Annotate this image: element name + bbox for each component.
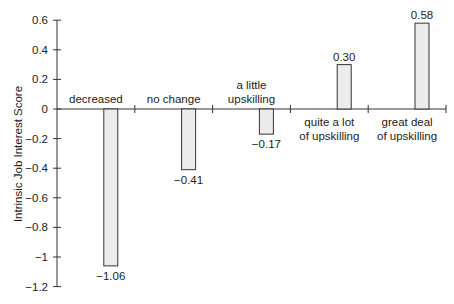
bar-group: −1.06decreased [69, 93, 125, 282]
y-tick-label: −1.2 [25, 281, 48, 293]
bar-value-label: 0.58 [411, 9, 433, 21]
y-tick-label: −0.2 [25, 133, 48, 145]
bar [104, 109, 118, 266]
category-label: of upskilling [299, 130, 359, 142]
category-label: quite a lot [304, 116, 355, 128]
bar [259, 109, 273, 134]
bar-value-label: −0.41 [174, 174, 203, 186]
category-label: great deal [382, 116, 433, 128]
category-label: upskilling [228, 93, 275, 105]
bar-group: 0.58great dealof upskilling [377, 9, 437, 142]
bar-group: −0.41no change [147, 93, 203, 186]
category-label: of upskilling [377, 130, 437, 142]
bar-group: −0.17a littleupskilling [228, 79, 281, 150]
y-tick-label: −0.8 [25, 221, 48, 233]
bar-value-label: −0.17 [252, 138, 281, 150]
bar [337, 65, 351, 109]
y-axis-title: Intrinsic Job Interest Score [12, 86, 24, 222]
bar-chart: 0.60.40.20−0.2−0.4−0.6−0.8−1−1.2 −1.06de… [0, 0, 454, 304]
bars: −1.06decreased−0.41no change−0.17a littl… [69, 9, 437, 282]
y-tick-label: 0 [42, 103, 48, 115]
category-label: a little [236, 79, 266, 91]
category-label: decreased [69, 93, 123, 105]
y-tick-label: −0.4 [25, 162, 48, 174]
bar-value-label: −1.06 [96, 270, 125, 282]
y-tick-label: 0.6 [32, 14, 48, 26]
y-tick-label: −1 [35, 251, 48, 263]
bar-value-label: 0.30 [333, 51, 355, 63]
y-tick-label: 0.4 [32, 44, 49, 56]
bar-group: 0.30quite a lotof upskilling [299, 51, 359, 142]
y-axis: 0.60.40.20−0.2−0.4−0.6−0.8−1−1.2 [25, 14, 61, 292]
y-tick-label: 0.2 [32, 73, 48, 85]
bar [415, 23, 429, 109]
y-tick-label: −0.6 [25, 192, 48, 204]
category-label: no change [147, 93, 201, 105]
bar [182, 109, 196, 170]
